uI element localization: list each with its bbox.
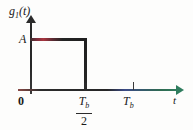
x-axis-label: t [173, 95, 176, 106]
y-axis-label-argument: (t) [19, 4, 30, 18]
fraction-numerator: Tb [72, 95, 96, 112]
y-axis-label: g1(t) [9, 5, 30, 20]
amplitude-label: A [19, 33, 26, 45]
fraction-numerator-subscript: b [85, 101, 89, 110]
y-axis-line [30, 22, 32, 94]
tick-label-tb-over-2: Tb 2 [72, 95, 96, 128]
pulse-top-segment [30, 38, 86, 41]
tick-label-tb-subscript: b [130, 101, 134, 110]
tick-tb [133, 82, 134, 90]
tick-label-tb-symbol: T [123, 94, 130, 108]
origin-label: 0 [18, 95, 24, 107]
fraction-denominator: 2 [72, 115, 96, 128]
tick-label-tb: Tb [123, 95, 134, 110]
x-axis-line [18, 89, 180, 91]
x-axis-arrowhead [176, 85, 184, 95]
tick-tb-over-2 [84, 83, 87, 91]
pulse-figure: g1(t) A 0 Tb 2 Tb t [0, 0, 193, 130]
